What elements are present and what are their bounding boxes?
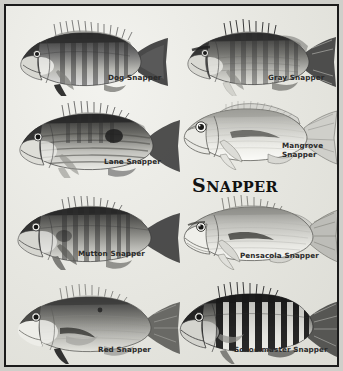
species-label-schoolmaster-snapper: Schoolmaster Snapper [234, 346, 328, 355]
species-card-red-snapper[interactable]: Red Snapper [8, 278, 180, 364]
species-card-pensacola-snapper[interactable]: Pensacola Snapper [174, 190, 339, 270]
species-label-mutton-snapper: Mutton Snapper [78, 250, 145, 259]
poster-frame: Dog Snapper [4, 4, 339, 367]
species-label-gray-snapper: Gray Snapper [268, 74, 324, 83]
species-card-lane-snapper[interactable]: Lane Snapper [8, 94, 180, 178]
species-card-gray-snapper[interactable]: Gray Snapper [174, 12, 339, 96]
species-card-mutton-snapper[interactable]: Mutton Snapper [8, 190, 180, 270]
species-card-dog-snapper[interactable]: Dog Snapper [8, 12, 174, 96]
gray-snapper-illustration [174, 12, 339, 96]
dog-snapper-illustration [8, 12, 174, 96]
snapper-identification-poster: Dog Snapper [0, 0, 343, 371]
poster-plate: Dog Snapper [6, 6, 337, 365]
species-card-schoolmaster-snapper[interactable]: Schoolmaster Snapper [172, 276, 339, 364]
species-label-mangrove-snapper-line2: Snapper [282, 150, 317, 159]
species-label-mangrove-snapper: MangroveSnapper [282, 142, 328, 159]
species-label-red-snapper: Red Snapper [98, 346, 151, 355]
species-card-mangrove-snapper[interactable]: MangroveSnapper [174, 92, 339, 170]
species-label-lane-snapper: Lane Snapper [104, 158, 161, 167]
species-label-pensacola-snapper: Pensacola Snapper [240, 252, 319, 261]
red-snapper-illustration [8, 278, 180, 364]
species-label-dog-snapper: Dog Snapper [108, 74, 162, 83]
